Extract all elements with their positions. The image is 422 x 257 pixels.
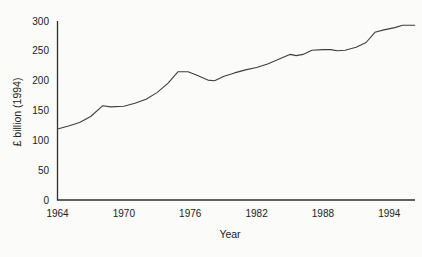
x-tick-label: 1970 bbox=[113, 208, 136, 219]
x-tick-label: 1982 bbox=[245, 208, 268, 219]
line-chart-figure: 050100150200250300 196419701976198219881… bbox=[0, 0, 422, 257]
x-tick-label: 1964 bbox=[46, 208, 69, 219]
x-tick-label: 1994 bbox=[378, 208, 401, 219]
chart-canvas: 050100150200250300 196419701976198219881… bbox=[0, 0, 422, 257]
y-tick-label: 300 bbox=[32, 16, 49, 27]
x-axis-label: Year bbox=[219, 228, 241, 240]
y-tick-label: 250 bbox=[32, 45, 49, 56]
y-tick-label: 0 bbox=[43, 195, 49, 206]
y-tick-label: 100 bbox=[32, 135, 49, 146]
y-tick-label: 200 bbox=[32, 75, 49, 86]
y-axis-label: £ billion (1994) bbox=[11, 78, 23, 147]
data-line bbox=[58, 25, 415, 129]
y-tick-label: 50 bbox=[38, 165, 50, 176]
axis-lines bbox=[58, 21, 416, 200]
x-tick-label: 1988 bbox=[312, 208, 335, 219]
x-axis-tick-labels: 196419701976198219881994 bbox=[46, 208, 400, 219]
y-axis-tick-labels: 050100150200250300 bbox=[32, 16, 49, 206]
y-tick-label: 150 bbox=[32, 105, 49, 116]
x-tick-label: 1976 bbox=[179, 208, 202, 219]
